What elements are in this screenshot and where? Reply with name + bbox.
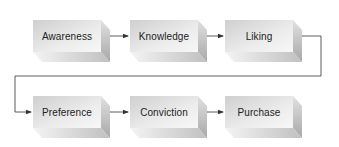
step-preference: Preference xyxy=(33,96,123,140)
step-label: Liking xyxy=(225,20,293,52)
step-knowledge: Knowledge xyxy=(130,20,220,64)
step-label: Preference xyxy=(33,96,101,128)
step-label: Purchase xyxy=(225,96,293,128)
step-purchase: Purchase xyxy=(225,96,315,140)
hierarchy-of-effects-diagram: Awareness Knowledge Liking Preference xyxy=(0,0,339,147)
step-label: Awareness xyxy=(33,20,101,52)
step-label: Conviction xyxy=(130,96,198,128)
step-liking: Liking xyxy=(225,20,315,64)
step-label: Knowledge xyxy=(130,20,198,52)
step-awareness: Awareness xyxy=(33,20,123,64)
step-conviction: Conviction xyxy=(130,96,220,140)
